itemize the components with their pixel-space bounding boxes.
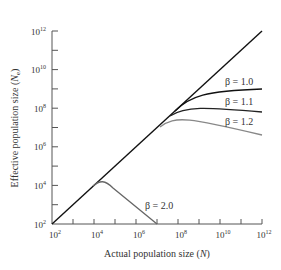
svg-text:1010: 1010 — [216, 229, 231, 240]
svg-text:1012: 1012 — [31, 26, 46, 37]
y-ticks — [52, 31, 58, 205]
svg-text:106: 106 — [34, 141, 46, 152]
x-ticks — [73, 219, 262, 224]
label-beta-1-2: β = 1.2 — [225, 116, 253, 127]
label-beta-2-0: β = 2.0 — [145, 200, 173, 211]
label-beta-1-1: β = 1.1 — [225, 96, 253, 107]
svg-text:1010: 1010 — [31, 64, 46, 75]
svg-text:104: 104 — [91, 229, 103, 240]
chart-canvas: 1012 1010 108 106 104 102 102 104 106 10… — [0, 0, 281, 270]
svg-text:1012: 1012 — [257, 229, 272, 240]
svg-text:106: 106 — [133, 229, 145, 240]
svg-text:102: 102 — [49, 229, 61, 240]
y-tick-labels: 1012 1010 108 106 104 102 — [31, 26, 46, 230]
svg-text:108: 108 — [34, 103, 46, 114]
svg-text:108: 108 — [175, 229, 187, 240]
svg-text:104: 104 — [34, 180, 46, 191]
label-beta-1-0: β = 1.0 — [225, 76, 253, 87]
curve-beta-1-1 — [170, 108, 262, 116]
svg-text:102: 102 — [34, 219, 46, 230]
y-axis-title: Effective population size (Ne) — [9, 69, 22, 188]
x-tick-labels: 102 104 106 108 1010 1012 — [49, 229, 272, 240]
x-axis-title: Actual population size (N) — [104, 248, 210, 260]
